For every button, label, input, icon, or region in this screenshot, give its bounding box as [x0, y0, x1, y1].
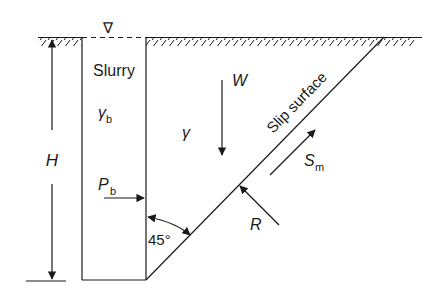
weight-label: W	[232, 72, 249, 89]
gamma-b-subscript: b	[106, 113, 112, 125]
slip-surface-line	[146, 37, 384, 280]
reaction-label: R	[250, 216, 262, 233]
angle-label: 45°	[148, 231, 171, 248]
pressure-subscript: b	[110, 185, 116, 197]
shear-subscript: m	[315, 161, 324, 173]
gamma-label: γ	[182, 124, 191, 141]
height-label: H	[46, 151, 59, 170]
trench-diagram: ∇ H Slurry γ b γ W Slip surface S m R P …	[0, 0, 437, 302]
pressure-label: P	[98, 176, 109, 193]
ground-hatch-right	[146, 38, 416, 46]
slurry-label: Slurry	[93, 62, 135, 79]
shear-label: S	[304, 152, 315, 169]
ground-hatch-left	[38, 38, 82, 46]
water-level-symbol: ∇	[102, 19, 114, 36]
